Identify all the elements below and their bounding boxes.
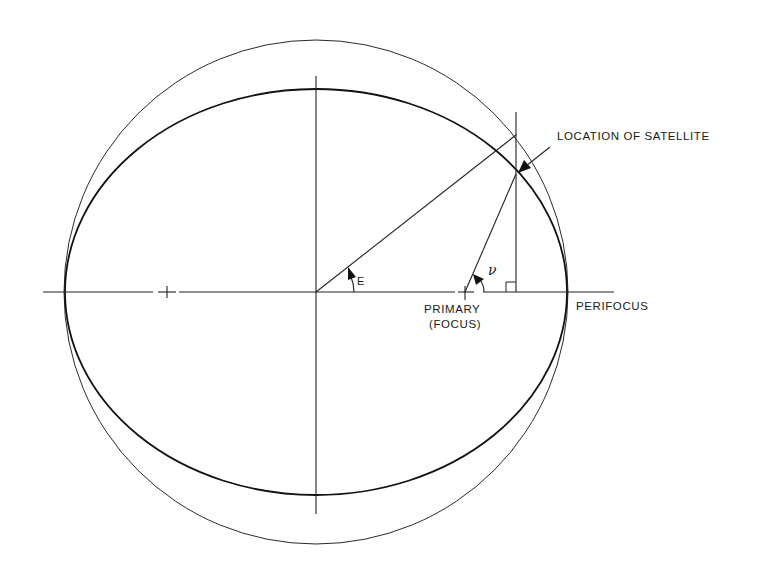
satellite-label: LOCATION OF SATELLITE (557, 130, 710, 142)
eccentric-anomaly-arc (351, 277, 354, 292)
true-anomaly-arc (480, 280, 484, 292)
orbit-diagram (0, 0, 776, 574)
eccentric-anomaly-symbol: E (357, 275, 364, 287)
eccentric-anomaly-radius (316, 135, 516, 292)
eccentric-anomaly-arrowhead (348, 267, 356, 280)
satellite-pointer-shaft (526, 147, 550, 166)
right-angle-marker (506, 282, 516, 292)
perifocus-label: PERIFOCUS (576, 300, 649, 312)
true-anomaly-symbol: ν (488, 262, 497, 278)
primary-label: PRIMARY (424, 303, 480, 315)
satellite-pointer-arrowhead (518, 160, 531, 173)
focus-label: (FOCUS) (429, 318, 481, 330)
empty-focus-marker (158, 286, 176, 298)
primary-focus-marker (458, 286, 474, 300)
